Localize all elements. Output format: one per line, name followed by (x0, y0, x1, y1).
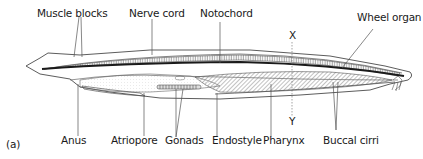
label-atriopore: Atriopore (111, 135, 158, 146)
label-wheel-organ: Wheel organ (357, 12, 421, 23)
pharynx-region (195, 72, 392, 93)
panel-label: (a) (6, 139, 20, 150)
label-anus: Anus (61, 135, 86, 146)
section-marker-y: Y (289, 116, 295, 127)
label-buccal-cirri: Buccal cirri (323, 135, 379, 146)
section-marker-x: X (289, 30, 296, 41)
label-notochord: Notochord (200, 8, 253, 19)
amphioxus-diagram: Muscle blocks Nerve cord Notochord Wheel… (0, 0, 423, 159)
gonads-chain (157, 85, 201, 89)
label-gonads: Gonads (165, 135, 204, 146)
label-nerve-cord: Nerve cord (129, 8, 185, 19)
label-muscle-blocks: Muscle blocks (37, 8, 107, 19)
label-endostyle: Endostyle (212, 135, 262, 146)
label-pharynx: Pharynx (263, 135, 304, 146)
